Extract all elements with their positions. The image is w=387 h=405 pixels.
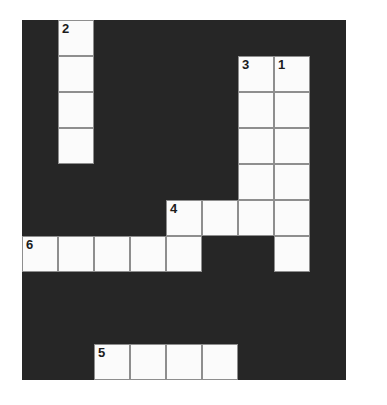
crossword-cell[interactable]: 5 <box>94 344 130 380</box>
cell-number-3: 3 <box>242 57 249 72</box>
crossword-cell[interactable] <box>166 236 202 272</box>
crossword-cell[interactable] <box>274 200 310 236</box>
cell-number-5: 5 <box>98 345 105 360</box>
crossword-cell[interactable] <box>202 344 238 380</box>
crossword-cell[interactable] <box>58 236 94 272</box>
crossword-cell[interactable] <box>94 236 130 272</box>
cell-number-4: 4 <box>170 201 177 216</box>
cell-number-6: 6 <box>26 237 33 252</box>
crossword-cell[interactable]: 4 <box>166 200 202 236</box>
cell-number-1: 1 <box>278 57 285 72</box>
crossword-cell[interactable] <box>130 236 166 272</box>
crossword-cell[interactable] <box>274 128 310 164</box>
crossword-cell[interactable] <box>238 164 274 200</box>
crossword-cell-layer: 231465 <box>22 20 346 380</box>
crossword-cell[interactable]: 6 <box>22 236 58 272</box>
crossword-board[interactable]: 231465 <box>22 20 346 380</box>
crossword-cell[interactable] <box>202 200 238 236</box>
cell-number-2: 2 <box>62 21 69 36</box>
crossword-cell[interactable] <box>238 128 274 164</box>
crossword-cell[interactable] <box>58 128 94 164</box>
crossword-screenshot: 231465 <box>0 0 387 405</box>
crossword-cell[interactable] <box>238 200 274 236</box>
crossword-cell[interactable] <box>238 92 274 128</box>
crossword-cell[interactable] <box>274 236 310 272</box>
crossword-cell[interactable]: 3 <box>238 56 274 92</box>
crossword-cell[interactable] <box>130 344 166 380</box>
crossword-cell[interactable]: 1 <box>274 56 310 92</box>
crossword-cell[interactable] <box>58 92 94 128</box>
crossword-cell[interactable] <box>58 56 94 92</box>
crossword-cell[interactable] <box>166 344 202 380</box>
crossword-cell[interactable] <box>274 164 310 200</box>
crossword-cell[interactable] <box>274 92 310 128</box>
crossword-cell[interactable]: 2 <box>58 20 94 56</box>
